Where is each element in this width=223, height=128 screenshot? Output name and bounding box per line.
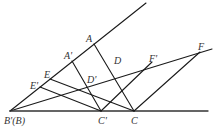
label-C-prime: C': [98, 115, 108, 126]
label-B: B'(B): [4, 115, 26, 127]
segment-A-prime-C-prime: [72, 61, 101, 111]
segment-CF: [134, 52, 200, 111]
label-A: A: [85, 33, 93, 44]
label-E-prime: E': [29, 80, 39, 91]
label-D-prime: D': [86, 74, 97, 85]
label-D: D: [113, 55, 122, 66]
label-A-prime: A': [63, 50, 73, 61]
geometry-diagram: A A' D D' E E' F F' B'(B) C C': [0, 0, 223, 128]
label-F-prime: F': [148, 53, 158, 64]
label-C: C: [131, 115, 138, 126]
ray-upper: [10, 3, 146, 111]
label-E: E: [43, 69, 50, 80]
label-F: F: [197, 41, 205, 52]
